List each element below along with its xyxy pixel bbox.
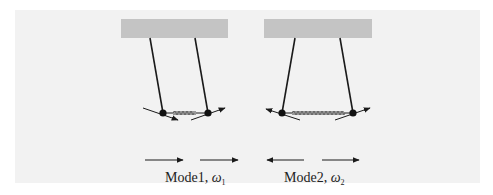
mode1-spring: [163, 111, 208, 115]
mode1-pendulum-system: Mode1, ω1: [121, 19, 238, 187]
coupled-pendulum-diagram: Mode1, ω1 Mode2, ω2: [0, 0, 493, 195]
mode1-label: Mode1, ω1: [165, 170, 226, 187]
mode1-right-bob: [204, 109, 211, 116]
mode1-left-string: [150, 38, 163, 113]
mode2-support-block: [264, 19, 372, 38]
mode1-support-block: [121, 19, 228, 38]
mode2-right-string: [340, 38, 353, 113]
mode1-left-bob: [159, 109, 166, 116]
mode1-right-string: [195, 38, 208, 113]
mode2-left-bob: [278, 109, 285, 116]
mode2-label: Mode2, ω2: [284, 170, 345, 187]
mode2-spring: [282, 111, 353, 115]
mode2-left-string: [282, 38, 295, 113]
mode2-right-bob: [349, 109, 356, 116]
mode2-pendulum-system: Mode2, ω2: [264, 19, 372, 187]
